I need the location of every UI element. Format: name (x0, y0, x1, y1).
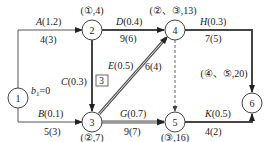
node-5-label: 5 (173, 117, 178, 128)
edge-h: H(0.3) 7(5) (185, 16, 252, 92)
node-2-label: 2 (90, 25, 95, 36)
edge-e-prob: (0.5) (114, 60, 133, 72)
node-6-annotation: (④、⑤,20) (200, 68, 247, 80)
edge-k-duration: 4(2) (205, 126, 222, 138)
node-3-annotation: (②,7) (80, 132, 103, 142)
node-2-annotation: (①,4) (80, 5, 103, 17)
edge-b: B(0.1) 5(3) (18, 108, 82, 138)
edge-h-prob: (0.3) (207, 16, 226, 28)
edge-g-prob: (0.7) (127, 108, 146, 120)
node-1: 1 b1=0 (8, 85, 50, 108)
network-diagram: A(1.2) 4(3) B(0.1) 5(3) C(0.3) 3 D(0.4) … (0, 0, 266, 142)
start-annotation: b1=0 (31, 85, 50, 98)
edge-h-duration: 7(5) (205, 33, 222, 45)
node-4-annotation: (②、③,13) (149, 5, 196, 17)
node-5: 5 (③,16) (161, 112, 189, 142)
edge-g-duration: 9(7) (124, 126, 141, 138)
node-4-label: 4 (173, 25, 178, 36)
node-3-label: 3 (90, 117, 95, 128)
edge-d-duration: 9(6) (120, 33, 137, 45)
edge-k: K(0.5) 4(2) (185, 108, 252, 138)
svg-text:C(0.3): C(0.3) (61, 76, 87, 88)
edge-e-name: E (107, 60, 114, 71)
edge-e: E(0.5) 6(4) (99, 36, 168, 114)
edge-c: C(0.3) 3 (61, 40, 108, 111)
edge-k-prob: (0.5) (212, 108, 231, 120)
edge-b-prob: (0.1) (44, 108, 63, 120)
edge-e-duration: 6(4) (145, 61, 162, 73)
edge-c-duration: 3 (99, 75, 104, 86)
edge-c-prob: (0.3) (68, 76, 87, 88)
svg-text:B(0.1): B(0.1) (38, 108, 63, 120)
svg-text:G(0.7): G(0.7) (120, 108, 146, 120)
node-3: 3 (②,7) (80, 112, 103, 142)
node-4: 4 (②、③,13) (149, 5, 196, 40)
node-1-label: 1 (16, 93, 21, 104)
edge-d-prob: (0.4) (123, 16, 142, 28)
edge-a-duration: 4(3) (40, 34, 57, 46)
edge-g: G(0.7) 9(7) (102, 108, 165, 138)
svg-text:E(0.5): E(0.5) (107, 60, 133, 72)
node-6-label: 6 (250, 98, 255, 109)
node-5-annotation: (③,16) (161, 132, 189, 142)
edge-a-prob: (1.2) (42, 16, 61, 28)
node-2: 2 (①,4) (80, 5, 103, 40)
edge-d: D(0.4) 9(6) (102, 16, 164, 45)
svg-text:D(0.4): D(0.4) (115, 16, 142, 28)
svg-text:K(0.5): K(0.5) (204, 108, 231, 120)
edge-b-duration: 5(3) (44, 126, 61, 138)
svg-text:H(0.3): H(0.3) (199, 16, 226, 28)
edge-g-name: G (120, 108, 127, 119)
svg-text:A(1.2): A(1.2) (35, 16, 61, 28)
